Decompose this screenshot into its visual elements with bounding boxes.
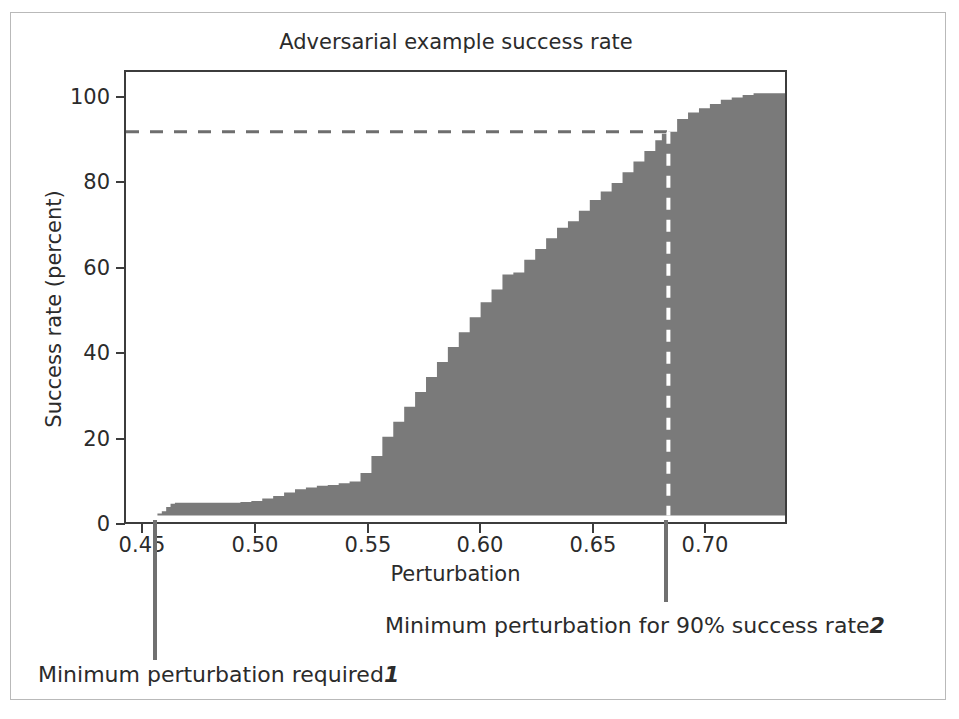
- x-tick-label-0.60: 0.60: [457, 533, 504, 557]
- callout-label-2-number: 2: [870, 613, 885, 638]
- callout-label-1: Minimum perturbation required1: [38, 662, 399, 687]
- x-tick-mark-0.45: [141, 524, 143, 533]
- y-tick-label-60: 60: [83, 256, 110, 280]
- y-tick-label-0: 0: [97, 512, 110, 536]
- x-tick-label-0.45: 0.45: [119, 533, 166, 557]
- callout-rule-2: [664, 520, 668, 602]
- plot-area: [124, 70, 787, 524]
- y-tick-label-40: 40: [83, 341, 110, 365]
- callout-label-1-text: Minimum perturbation required: [38, 662, 384, 687]
- x-tick-label-0.55: 0.55: [345, 533, 392, 557]
- callout-label-1-number: 1: [384, 662, 399, 687]
- figure-container: Adversarial example success rate 0 20 40…: [0, 0, 959, 719]
- callout-label-2: Minimum perturbation for 90% success rat…: [385, 613, 885, 638]
- success-rate-area-chart: [126, 72, 785, 522]
- y-tick-label-100: 100: [70, 85, 110, 109]
- callout-rule-1: [153, 520, 157, 660]
- x-tick-mark-0.55: [367, 524, 369, 533]
- x-tick-mark-0.70: [704, 524, 706, 533]
- x-tick-mark-0.65: [592, 524, 594, 533]
- x-axis-label: Perturbation: [124, 562, 787, 586]
- callout-label-2-text: Minimum perturbation for 90% success rat…: [385, 613, 870, 638]
- y-tick-label-80: 80: [83, 170, 110, 194]
- y-tick-label-20: 20: [83, 427, 110, 451]
- x-tick-label-0.50: 0.50: [232, 533, 279, 557]
- y-axis-label: Success rate (percent): [42, 99, 66, 519]
- x-tick-label-0.70: 0.70: [682, 533, 729, 557]
- x-tick-mark-0.50: [254, 524, 256, 533]
- area-series-fill: [153, 93, 785, 515]
- x-tick-label-0.65: 0.65: [570, 533, 617, 557]
- x-tick-mark-0.60: [479, 524, 481, 533]
- chart-title: Adversarial example success rate: [124, 30, 788, 54]
